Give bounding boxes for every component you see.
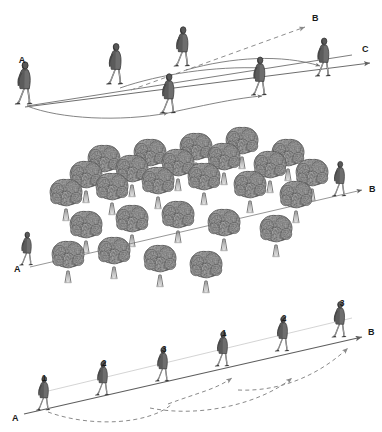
label-walker-right-1: 1 <box>222 328 227 338</box>
label-target-b-bottom: B <box>368 327 375 337</box>
label-start-a-top: A <box>19 55 26 65</box>
navigation-diagram-figure: A B C <box>0 0 382 432</box>
label-target-b-top: B <box>312 13 319 23</box>
label-walker-right-3: 3 <box>340 298 345 308</box>
diagram-canvas: A B C <box>0 0 382 432</box>
label-start-a-bottom: A <box>12 413 19 423</box>
label-target-c-top: C <box>362 44 369 54</box>
label-walker-right-2: 2 <box>282 313 287 323</box>
label-walker-left-3: 3 <box>162 344 167 354</box>
label-walker-left-2: 2 <box>102 358 107 368</box>
label-start-a-middle: A <box>14 264 21 274</box>
label-target-b-middle: B <box>369 184 376 194</box>
label-walker-left-1: 1 <box>42 373 47 383</box>
